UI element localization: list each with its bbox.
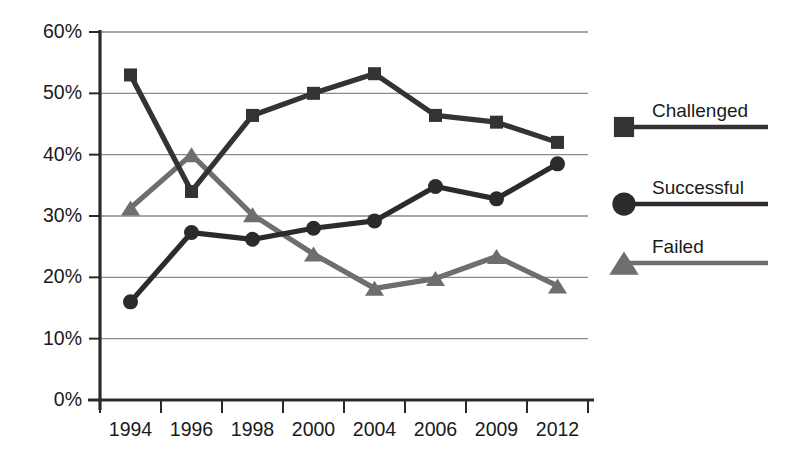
y-axis-tick-label: 30% [43,204,82,226]
square-marker-icon [429,109,442,122]
circle-marker-icon [550,156,565,171]
circle-marker-icon [367,213,382,228]
square-marker-icon [551,136,564,149]
x-axis-tick-label: 2004 [353,418,397,440]
circle-marker-icon [245,232,260,247]
x-axis-tick-label: 2006 [414,418,457,440]
square-marker-icon [246,109,259,122]
square-marker-icon [368,67,381,80]
x-axis-tick-label: 2012 [536,418,579,440]
circle-marker-icon [612,192,635,215]
legend-label: Failed [652,236,704,257]
x-axis-tick-label: 1994 [109,418,153,440]
y-axis-tick-label: 20% [43,265,82,287]
y-axis-tick-label: 60% [43,20,82,42]
x-axis-tick-label: 2009 [475,418,518,440]
y-axis-tick-label: 50% [43,81,82,103]
circle-marker-icon [428,179,443,194]
square-marker-icon [124,68,137,81]
line-chart: 0%10%20%30%40%50%60% 1994199619982000200… [0,0,788,464]
circle-marker-icon [489,191,504,206]
chart-container: 0%10%20%30%40%50%60% 1994199619982000200… [0,0,788,464]
circle-marker-icon [306,221,321,236]
chart-background [0,0,788,464]
circle-marker-icon [184,225,199,240]
legend-label: Successful [652,177,744,198]
square-marker-icon [185,185,198,198]
circle-marker-icon [123,294,138,309]
y-axis-tick-label: 40% [43,143,82,165]
y-axis-tick-label: 10% [43,327,82,349]
square-marker-icon [490,116,503,129]
square-marker-icon [614,117,634,137]
x-axis-tick-label: 2000 [292,418,336,440]
x-axis-tick-label: 1996 [170,418,213,440]
x-axis-tick-label: 1998 [231,418,274,440]
square-marker-icon [307,87,320,100]
legend-label: Challenged [652,100,748,121]
y-axis-tick-label: 0% [54,388,82,410]
